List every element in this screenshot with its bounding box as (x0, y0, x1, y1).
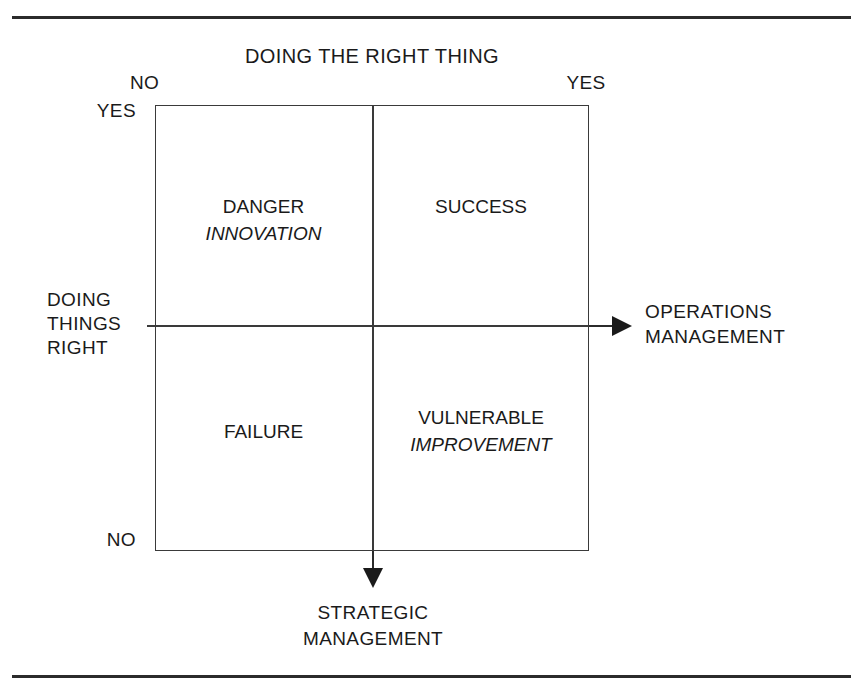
figure-page: DOING THE RIGHT THING NO YES YES NO DOIN… (0, 0, 863, 699)
quadrant-bottom-right-primary: VULNERABLE (373, 404, 589, 431)
right-arrow-icon (612, 316, 632, 336)
quadrant-top-left: DANGER INNOVATION (155, 193, 372, 247)
top-axis-title: DOING THE RIGHT THING (155, 44, 589, 69)
horizontal-divider-line (147, 325, 589, 327)
quadrant-bottom-left-primary: FAILURE (155, 418, 372, 445)
right-axis-title: OPERATIONS MANAGEMENT (645, 299, 845, 349)
quadrant-bottom-left: FAILURE (155, 418, 372, 445)
quadrant-top-right-primary: SUCCESS (373, 193, 589, 220)
bottom-horizontal-rule (12, 675, 851, 678)
quadrant-top-left-secondary: INNOVATION (155, 220, 372, 247)
quadrant-top-left-primary: DANGER (155, 193, 372, 220)
top-axis-no-label: NO (130, 70, 170, 95)
left-axis-no-label: NO (60, 527, 136, 552)
top-axis-yes-label: YES (556, 70, 616, 95)
quadrant-top-right: SUCCESS (373, 193, 589, 220)
down-arrow-icon (363, 568, 383, 588)
left-axis-yes-label: YES (60, 98, 136, 123)
top-horizontal-rule (12, 16, 851, 19)
quadrant-bottom-right: VULNERABLE IMPROVEMENT (373, 404, 589, 458)
bottom-axis-title: STRATEGIC MANAGEMENT (262, 600, 484, 652)
left-axis-title: DOING THINGS RIGHT (47, 288, 147, 360)
quadrant-bottom-right-secondary: IMPROVEMENT (373, 431, 589, 458)
vertical-divider-line (372, 105, 374, 551)
